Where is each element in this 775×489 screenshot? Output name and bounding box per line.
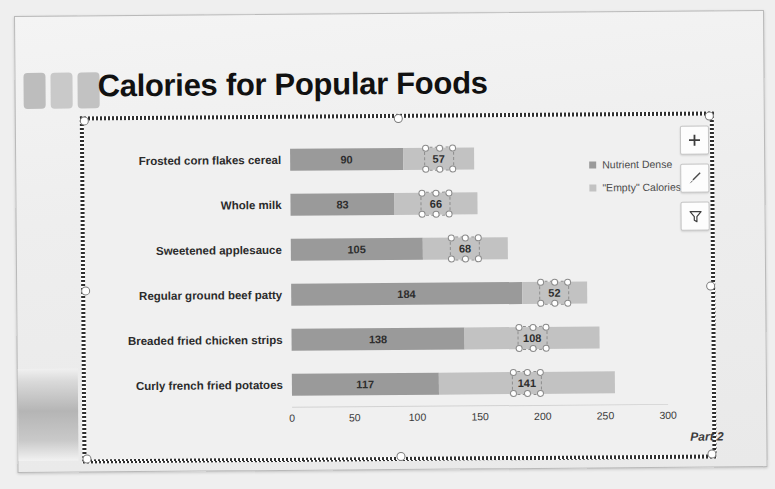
data-label[interactable]: 138 bbox=[291, 327, 464, 350]
label-handle[interactable] bbox=[542, 323, 549, 330]
category-label: Curly french fried potatoes bbox=[86, 378, 292, 392]
stacked-bar[interactable]: 117141 bbox=[292, 370, 712, 395]
label-handle[interactable] bbox=[542, 344, 549, 351]
label-handle[interactable] bbox=[436, 144, 443, 151]
chart-handle-top-left[interactable] bbox=[80, 116, 89, 125]
data-label[interactable]: 108 bbox=[517, 325, 547, 349]
chart-tool-buttons bbox=[680, 126, 710, 231]
label-handle[interactable] bbox=[537, 278, 544, 285]
label-handle[interactable] bbox=[449, 144, 456, 151]
chart-handle-top-center[interactable] bbox=[394, 114, 403, 123]
label-handle[interactable] bbox=[515, 345, 522, 352]
label-handle[interactable] bbox=[524, 389, 531, 396]
data-label[interactable]: 141 bbox=[512, 370, 542, 394]
powerpoint-slide[interactable]: Calories for Popular Foods Frosted corn … bbox=[14, 10, 768, 473]
x-axis-tick-label: 100 bbox=[409, 411, 427, 423]
category-label: Whole milk bbox=[84, 198, 290, 212]
x-axis-tick-label: 300 bbox=[659, 409, 677, 421]
data-label[interactable]: 90 bbox=[290, 147, 403, 170]
data-label[interactable]: 105 bbox=[291, 237, 423, 260]
chart-filters-button[interactable] bbox=[680, 202, 709, 231]
category-label: Frosted corn flakes cereal bbox=[84, 153, 290, 167]
label-handle[interactable] bbox=[446, 189, 453, 196]
chart-object[interactable]: Frosted corn flakes cereal9057Whole milk… bbox=[84, 116, 713, 460]
data-label[interactable]: 117 bbox=[292, 372, 439, 395]
label-handle[interactable] bbox=[529, 344, 536, 351]
legend-swatch bbox=[589, 161, 596, 168]
chart-elements-button[interactable] bbox=[680, 126, 709, 155]
screenshot-root: Calories for Popular Foods Frosted corn … bbox=[0, 0, 775, 489]
data-label[interactable]: 68 bbox=[450, 236, 480, 260]
deco-square-3 bbox=[77, 72, 99, 108]
deco-square-1 bbox=[23, 73, 45, 109]
data-label[interactable]: 52 bbox=[539, 280, 569, 304]
legend-label: Nutrient Dense bbox=[602, 158, 672, 171]
chart-plot-area: Frosted corn flakes cereal9057Whole milk… bbox=[84, 116, 713, 460]
label-handle[interactable] bbox=[433, 189, 440, 196]
chart-handle-middle-right[interactable] bbox=[706, 282, 715, 291]
label-handle[interactable] bbox=[448, 255, 455, 262]
label-handle[interactable] bbox=[422, 144, 429, 151]
category-label: Regular ground beef patty bbox=[85, 288, 291, 302]
legend-swatch bbox=[589, 184, 596, 191]
label-handle[interactable] bbox=[551, 278, 558, 285]
chart-handle-bottom-center[interactable] bbox=[396, 452, 405, 461]
label-handle[interactable] bbox=[515, 324, 522, 331]
label-handle[interactable] bbox=[537, 368, 544, 375]
label-handle[interactable] bbox=[537, 299, 544, 306]
brush-icon bbox=[687, 171, 702, 186]
data-label[interactable]: 66 bbox=[421, 191, 451, 215]
label-handle[interactable] bbox=[446, 210, 453, 217]
label-handle[interactable] bbox=[564, 278, 571, 285]
bar-row[interactable]: Curly french fried potatoes117141 bbox=[86, 359, 712, 409]
legend-item[interactable]: "Empty" Calories bbox=[589, 181, 681, 194]
label-handle[interactable] bbox=[510, 390, 517, 397]
legend-item[interactable]: Nutrient Dense bbox=[589, 158, 681, 171]
x-axis-tick-label: 50 bbox=[349, 411, 361, 423]
stacked-bar[interactable]: 18452 bbox=[291, 280, 711, 305]
label-handle[interactable] bbox=[422, 165, 429, 172]
label-handle[interactable] bbox=[462, 234, 469, 241]
chart-legend[interactable]: Nutrient Dense"Empty" Calories bbox=[589, 158, 681, 205]
label-handle[interactable] bbox=[524, 368, 531, 375]
chart-handle-top-right[interactable] bbox=[705, 112, 714, 121]
chart-handle-bottom-left[interactable] bbox=[82, 454, 91, 463]
chart-handle-middle-left[interactable] bbox=[81, 286, 90, 295]
category-label: Breaded fried chicken strips bbox=[86, 333, 292, 347]
label-handle[interactable] bbox=[551, 299, 558, 306]
bar-row[interactable]: Sweetened applesauce10568 bbox=[85, 224, 711, 274]
deco-square-2 bbox=[50, 73, 72, 109]
chart-styles-button[interactable] bbox=[680, 164, 709, 193]
x-axis: 050100150200250300 bbox=[292, 404, 668, 437]
label-handle[interactable] bbox=[475, 255, 482, 262]
category-label: Sweetened applesauce bbox=[85, 243, 291, 257]
label-handle[interactable] bbox=[529, 323, 536, 330]
x-axis-tick-label: 250 bbox=[597, 409, 615, 421]
label-handle[interactable] bbox=[564, 299, 571, 306]
bar-row[interactable]: Regular ground beef patty18452 bbox=[85, 269, 711, 319]
label-handle[interactable] bbox=[475, 234, 482, 241]
chart-handle-bottom-right[interactable] bbox=[707, 449, 716, 458]
title-decoration-squares bbox=[23, 72, 99, 109]
label-handle[interactable] bbox=[510, 369, 517, 376]
funnel-icon bbox=[688, 209, 702, 223]
label-handle[interactable] bbox=[433, 210, 440, 217]
stacked-bar[interactable]: 138108 bbox=[291, 325, 711, 350]
label-handle[interactable] bbox=[419, 210, 426, 217]
data-label[interactable]: 83 bbox=[290, 193, 394, 216]
slide-left-gradient-band bbox=[18, 369, 79, 461]
label-handle[interactable] bbox=[436, 165, 443, 172]
x-axis-tick-label: 200 bbox=[534, 410, 552, 422]
data-label[interactable]: 184 bbox=[291, 282, 522, 306]
data-label[interactable]: 57 bbox=[424, 146, 454, 170]
label-handle[interactable] bbox=[448, 234, 455, 241]
label-handle[interactable] bbox=[537, 389, 544, 396]
label-handle[interactable] bbox=[419, 189, 426, 196]
slide-title[interactable]: Calories for Popular Foods bbox=[97, 65, 487, 104]
slide-footer-note: Part 2 bbox=[690, 429, 723, 443]
bar-row[interactable]: Breaded fried chicken strips138108 bbox=[85, 314, 711, 364]
label-handle[interactable] bbox=[462, 255, 469, 262]
legend-label: "Empty" Calories bbox=[602, 181, 681, 194]
stacked-bar[interactable]: 10568 bbox=[291, 235, 711, 260]
label-handle[interactable] bbox=[449, 165, 456, 172]
